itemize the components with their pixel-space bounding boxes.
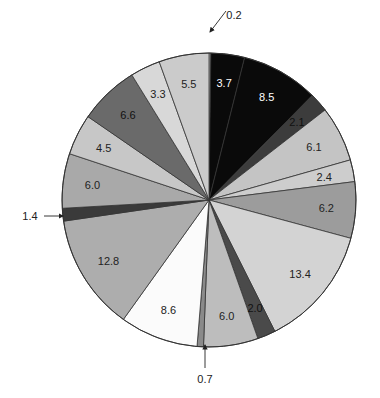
- slice-value-label: 5.5: [181, 78, 196, 90]
- pie-slices: [62, 53, 356, 347]
- callout-value-label: 0.7: [197, 373, 212, 385]
- slice-value-label: 6.6: [120, 109, 135, 121]
- slice-value-label: 8.5: [259, 91, 274, 103]
- slice-value-label: 4.5: [96, 142, 111, 154]
- callout-value-label: 0.2: [226, 9, 241, 21]
- slice-value-label: 8.6: [161, 304, 176, 316]
- slice-value-label: 6.2: [319, 202, 334, 214]
- slice-value-label: 6.0: [219, 310, 234, 322]
- slice-value-label: 6.1: [306, 141, 321, 153]
- slice-value-label: 2.4: [317, 171, 332, 183]
- callout-arrow-icon: [210, 11, 226, 32]
- callout-value-label: 1.4: [22, 210, 37, 222]
- pie-chart: 3.78.52.16.12.46.213.42.06.08.612.86.04.…: [0, 0, 380, 398]
- slice-value-label: 2.0: [247, 302, 262, 314]
- slice-value-label: 12.8: [98, 255, 119, 267]
- slice-value-label: 13.4: [289, 268, 310, 280]
- slice-value-label: 2.1: [289, 116, 304, 128]
- slice-value-label: 3.3: [150, 88, 165, 100]
- slice-value-label: 3.7: [216, 77, 231, 89]
- slice-value-label: 6.0: [85, 179, 100, 191]
